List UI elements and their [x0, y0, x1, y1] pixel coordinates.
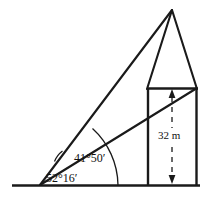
sight-line-to-apex: [40, 10, 172, 185]
dimension-arrowhead-down-icon: [169, 175, 176, 184]
angle-label-lower: 52°16′: [46, 172, 77, 184]
dimension-arrowhead-up-icon: [169, 89, 176, 98]
geometry-figure: 52°16′ 41°50′ 32 m: [0, 0, 209, 203]
roof-slope-right: [172, 10, 197, 89]
angle-label-upper: 41°50′: [74, 152, 105, 164]
roof-slope-left: [147, 10, 172, 89]
figure-canvas: [0, 0, 209, 203]
height-label: 32 m: [158, 130, 180, 141]
